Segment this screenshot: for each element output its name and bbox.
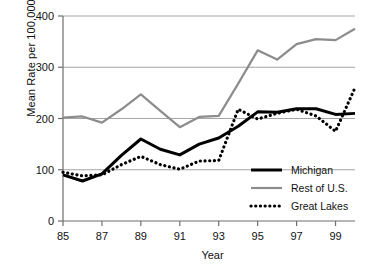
y-tick-label: 0: [48, 215, 54, 227]
x-tick-label: 89: [135, 230, 147, 242]
legend-label: Great Lakes: [291, 200, 348, 212]
series-line-rest-of-u-s: [63, 29, 355, 127]
series-layer: [63, 29, 355, 181]
chart-container: Mean Rate per 100,000 Year 0100200300400…: [0, 0, 365, 273]
x-tick-label: 87: [96, 230, 108, 242]
legend-label: Michigan: [291, 164, 333, 176]
y-tick-label: 400: [36, 10, 54, 22]
chart-legend: MichiganRest of U.S.Great Lakes: [251, 164, 348, 212]
x-tick-label: 91: [174, 230, 186, 242]
y-tick-label: 300: [36, 61, 54, 73]
series-line-great-lakes: [63, 88, 355, 176]
x-tick-label: 93: [213, 230, 225, 242]
x-tick-label: 85: [57, 230, 69, 242]
y-axis-label: Mean Rate per 100,000: [25, 0, 37, 123]
y-axis-ticks: 0100200300400: [36, 10, 63, 227]
y-tick-label: 200: [36, 113, 54, 125]
x-axis-label: Year: [0, 249, 365, 261]
x-axis-label-text: Year: [201, 249, 223, 261]
line-chart-svg: 0100200300400 8587899193959799 MichiganR…: [0, 0, 365, 273]
legend-label: Rest of U.S.: [291, 182, 348, 194]
x-axis-ticks: 8587899193959799: [57, 221, 342, 242]
x-tick-label: 95: [252, 230, 264, 242]
y-tick-label: 100: [36, 164, 54, 176]
x-tick-label: 99: [329, 230, 341, 242]
x-tick-label: 97: [290, 230, 302, 242]
